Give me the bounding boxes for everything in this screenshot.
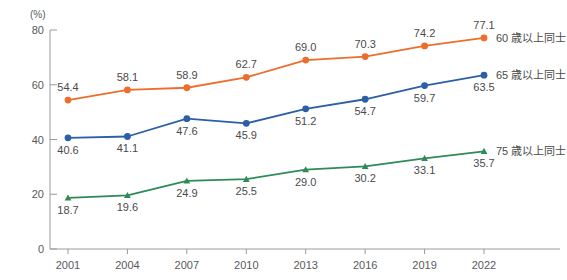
data-point-marker bbox=[362, 53, 369, 60]
data-point-label: 51.2 bbox=[295, 115, 316, 127]
data-point-label: 74.2 bbox=[414, 27, 435, 39]
data-point-label: 41.1 bbox=[117, 142, 138, 154]
data-point-label: 70.3 bbox=[354, 38, 375, 50]
data-point-marker bbox=[124, 133, 131, 140]
data-point-label: 18.7 bbox=[57, 204, 78, 216]
data-point-label: 58.1 bbox=[117, 71, 138, 83]
x-tick-label: 2013 bbox=[293, 259, 317, 271]
x-tick-label: 2010 bbox=[234, 259, 258, 271]
data-point-marker bbox=[302, 57, 309, 64]
data-point-label: 19.6 bbox=[117, 201, 138, 213]
data-point-label: 24.9 bbox=[176, 187, 197, 199]
data-point-label: 63.5 bbox=[473, 81, 494, 93]
data-point-marker bbox=[481, 35, 488, 42]
x-tick-label: 2001 bbox=[56, 259, 80, 271]
series-legend-label-2: 75 歳以上同士 bbox=[496, 145, 566, 157]
data-point-label: 30.2 bbox=[354, 172, 375, 184]
data-point-marker bbox=[362, 96, 369, 103]
data-point-label: 77.1 bbox=[473, 19, 494, 31]
data-point-label: 62.7 bbox=[236, 58, 257, 70]
chart-canvas: (%)0204060802001200420072010201320162019… bbox=[0, 0, 567, 280]
data-point-marker bbox=[302, 105, 309, 112]
y-tick-label: 20 bbox=[32, 188, 44, 200]
data-point-label: 54.7 bbox=[354, 105, 375, 117]
data-point-label: 25.5 bbox=[236, 185, 257, 197]
series-legend-label-0: 60 歳以上同士 bbox=[496, 32, 566, 44]
x-tick-label: 2007 bbox=[175, 259, 199, 271]
data-point-label: 29.0 bbox=[295, 176, 316, 188]
data-point-label: 33.1 bbox=[414, 164, 435, 176]
data-point-label: 59.7 bbox=[414, 92, 435, 104]
data-point-marker bbox=[243, 120, 250, 127]
data-point-marker bbox=[421, 42, 428, 49]
y-tick-label: 40 bbox=[32, 134, 44, 146]
y-tick-label: 60 bbox=[32, 79, 44, 91]
x-tick-label: 2016 bbox=[353, 259, 377, 271]
data-point-marker bbox=[243, 74, 250, 81]
x-tick-label: 2022 bbox=[472, 259, 496, 271]
data-point-label: 35.7 bbox=[473, 157, 494, 169]
x-tick-label: 2004 bbox=[115, 259, 139, 271]
data-point-marker bbox=[481, 72, 488, 79]
data-point-label: 54.4 bbox=[57, 81, 78, 93]
data-point-label: 40.6 bbox=[57, 144, 78, 156]
data-point-marker bbox=[183, 84, 190, 91]
y-axis-unit-label: (%) bbox=[30, 9, 46, 20]
line-chart: (%)0204060802001200420072010201320162019… bbox=[0, 0, 567, 280]
data-point-label: 69.0 bbox=[295, 41, 316, 53]
data-point-marker bbox=[421, 82, 428, 89]
data-point-marker bbox=[183, 115, 190, 122]
data-point-label: 47.6 bbox=[176, 125, 197, 137]
data-point-label: 45.9 bbox=[236, 129, 257, 141]
data-point-label: 58.9 bbox=[176, 69, 197, 81]
data-point-marker bbox=[65, 97, 72, 104]
data-point-marker bbox=[124, 87, 131, 94]
y-tick-label: 0 bbox=[38, 243, 44, 255]
series-legend-label-1: 65 歳以上同士 bbox=[496, 69, 566, 81]
y-tick-label: 80 bbox=[32, 24, 44, 36]
x-tick-label: 2019 bbox=[412, 259, 436, 271]
data-point-marker bbox=[65, 134, 72, 141]
